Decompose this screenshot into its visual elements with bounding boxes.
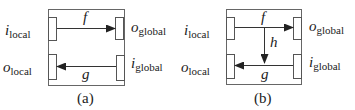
label-o-local-b: olocal	[181, 59, 210, 77]
port-o-local-b	[227, 55, 235, 79]
port-i-global-a	[117, 56, 125, 81]
label-f-a: f	[83, 9, 89, 25]
label-g-b: g	[261, 66, 269, 82]
port-o-global-b	[294, 18, 302, 40]
label-h-b: h	[270, 34, 278, 50]
port-i-global-b	[294, 55, 302, 79]
label-i-local-a: ilocal	[5, 22, 31, 40]
port-o-global-a	[116, 18, 124, 40]
caption-b: (b)	[254, 90, 272, 107]
label-o-global-b: oglobal	[309, 18, 344, 36]
port-o-local-a	[49, 55, 57, 80]
label-o-global-a: oglobal	[131, 19, 166, 37]
port-i-local-a	[49, 18, 57, 41]
port-i-local-b	[227, 18, 235, 40]
label-f-b: f	[261, 9, 267, 25]
diagram-canvas: f g ilocal olocal oglobal iglobal (a) f …	[0, 0, 355, 110]
caption-a: (a)	[77, 90, 94, 107]
label-i-global-b: iglobal	[309, 54, 341, 72]
label-i-global-a: iglobal	[131, 55, 163, 73]
label-g-a: g	[82, 66, 90, 82]
diagram-b: f h g ilocal olocal oglobal iglobal (b)	[181, 9, 344, 107]
diagram-a: f g ilocal olocal oglobal iglobal (a)	[3, 9, 166, 107]
label-o-local-a: olocal	[3, 59, 32, 77]
label-i-local-b: ilocal	[184, 22, 210, 40]
